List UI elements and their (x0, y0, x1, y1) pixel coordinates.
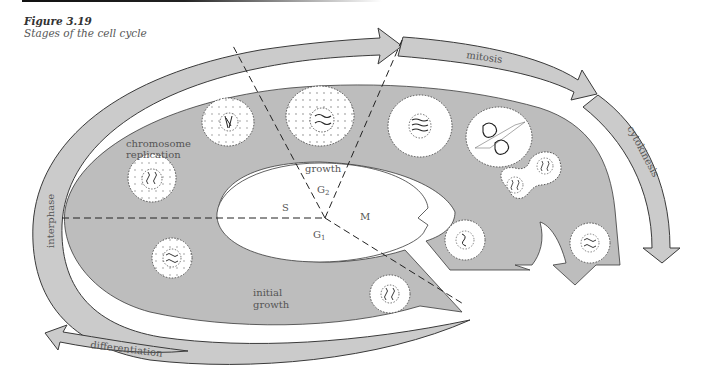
cell-metaphase (388, 95, 452, 157)
cell-cycle-diagram: interphase mitosis cytokinesis different… (0, 0, 706, 382)
cell-daughter-left (445, 220, 485, 260)
cell-daughter-right (570, 223, 610, 263)
label-replication: replication (126, 149, 181, 160)
cell-replication (202, 98, 254, 146)
phase-s: S (282, 202, 289, 213)
label-interphase: interphase (45, 194, 56, 248)
label-initial: initial (253, 287, 282, 298)
label-chromosome: chromosome (126, 138, 191, 149)
cell-g2-large (286, 86, 354, 146)
cell-initial-growth (370, 275, 410, 313)
phase-m: M (360, 211, 370, 222)
cell-anaphase (466, 107, 532, 167)
label-initial-growth: growth (253, 299, 290, 310)
label-growth-g2: growth (305, 163, 342, 174)
cell-g1 (152, 238, 192, 278)
cell-s-phase (128, 154, 176, 202)
